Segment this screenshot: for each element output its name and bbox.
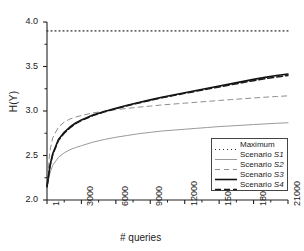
y-axis-title: H(Y) xyxy=(8,72,19,132)
legend-item-label: Scenario S2 xyxy=(240,160,284,169)
y-tick-label: 4.0 xyxy=(14,16,38,26)
y-tick-label: 2.5 xyxy=(14,150,38,160)
legend-line-swatch xyxy=(214,170,238,179)
legend-item-label: Scenario S4 xyxy=(240,180,284,189)
legend-item: Scenario S2 xyxy=(212,159,287,169)
y-tick-label: 3.0 xyxy=(14,105,38,115)
plot-canvas xyxy=(0,0,304,251)
legend-item: Scenario S3 xyxy=(212,170,287,180)
x-tick-label: 1 xyxy=(51,201,61,206)
legend-line-swatch xyxy=(214,160,238,169)
chart-figure: H(Y) # queries 2.02.53.03.54.0 130006000… xyxy=(0,0,304,251)
legend-line-swatch xyxy=(214,140,238,149)
legend-item: Maximum xyxy=(212,139,287,149)
chart-legend: MaximumScenario S1Scenario S2Scenario S3… xyxy=(211,138,288,191)
x-tick-label: 21000 xyxy=(292,181,302,206)
y-tick-label: 2.0 xyxy=(14,194,38,204)
x-tick-label: 6000 xyxy=(120,186,130,206)
legend-item: Scenario S4 xyxy=(212,180,287,190)
x-axis-title: # queries xyxy=(120,232,161,243)
y-tick-label: 3.5 xyxy=(14,61,38,71)
legend-item-label: Scenario S3 xyxy=(240,170,284,179)
legend-line-swatch xyxy=(214,150,238,159)
x-tick-label: 9000 xyxy=(154,186,164,206)
x-tick-label: 12000 xyxy=(189,181,199,206)
legend-item-label: Maximum xyxy=(240,140,275,149)
legend-item: Scenario S1 xyxy=(212,149,287,159)
x-tick-label: 3000 xyxy=(85,186,95,206)
legend-line-swatch xyxy=(214,180,238,189)
legend-item-label: Scenario S1 xyxy=(240,150,284,159)
